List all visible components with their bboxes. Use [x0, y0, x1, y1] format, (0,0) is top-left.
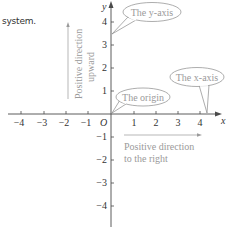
- y-tick-label: 2: [102, 62, 107, 73]
- callout-y-axis-text: The y-axis: [131, 7, 174, 18]
- callout-y-axis: The y-axis: [112, 3, 181, 35]
- x-tick-label: −1: [81, 117, 92, 128]
- upward-text-line2: upward: [85, 52, 96, 82]
- callout-origin-text: The origin: [122, 92, 164, 103]
- rightward-direction-annotation: Positive direction to the right: [124, 133, 202, 164]
- x-tick-label: −3: [37, 117, 48, 128]
- callout-origin: The origin: [112, 88, 170, 113]
- y-axis-label: y: [101, 1, 107, 12]
- y-tick-label: −1: [96, 131, 107, 142]
- y-tick-label: −4: [96, 200, 107, 211]
- rightward-text-line2: to the right: [124, 153, 168, 164]
- x-tick-label: −2: [59, 117, 70, 128]
- y-tick-label: 1: [102, 85, 107, 96]
- x-tick-label: 3: [176, 117, 181, 128]
- origin-label: O: [100, 117, 107, 128]
- x-tick-label: 2: [154, 117, 159, 128]
- rightward-text-line1: Positive direction: [124, 141, 194, 152]
- coordinate-plane: x −4 −3 −2 −1 1 2 3 4 y: [0, 0, 227, 227]
- x-tick-label: −4: [14, 117, 25, 128]
- callout-x-axis-text: The x-axis: [176, 72, 219, 83]
- y-tick-label: −3: [96, 177, 107, 188]
- y-tick-label: 4: [102, 16, 107, 27]
- upward-text-line1: Positive direction: [73, 29, 84, 99]
- arrow-right-icon: [197, 133, 202, 136]
- x-axis-label: x: [220, 115, 226, 126]
- y-tick-label: −2: [96, 154, 107, 165]
- x-tick-label: 1: [132, 117, 137, 128]
- arrow-up-icon: [66, 22, 69, 27]
- callout-x-axis: The x-axis: [170, 68, 224, 114]
- y-axis-arrow-icon: [109, 1, 114, 8]
- upward-direction-annotation: Positive direction upward: [66, 22, 96, 99]
- x-tick-label: 4: [198, 117, 203, 128]
- y-tick-label: 3: [102, 39, 107, 50]
- x-axis: x −4 −3 −2 −1 1 2 3 4: [8, 111, 226, 128]
